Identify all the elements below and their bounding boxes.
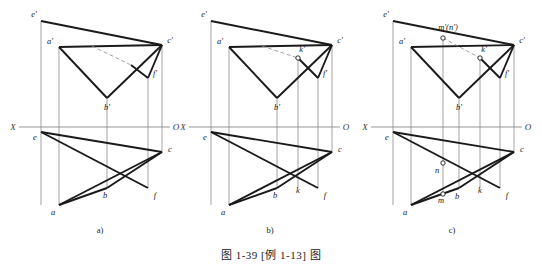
label-a: a (51, 207, 55, 217)
label-b: b (273, 190, 277, 200)
label-a-prime: a' (217, 36, 223, 46)
panel-a: e' a' c' f' b' e c b f a X O a) (9, 9, 180, 235)
figure-caption: 图 1-39 [例 1-13] 图 (0, 246, 542, 262)
panel-b-sublabel: b) (266, 225, 273, 235)
label-e-prime: e' (31, 9, 37, 19)
panel-c-edge-ep-fp-hidden (443, 38, 480, 58)
figure-root: e' a' c' f' b' e c b f a X O a) (0, 0, 542, 274)
label-m: m (438, 195, 444, 205)
label-k-prime: k' (299, 44, 305, 54)
panel-c-projection-lines (393, 21, 514, 205)
label-axis-x-b: X (179, 122, 186, 132)
label-axis-o-b: O (343, 122, 350, 132)
panel-a-frontal-triangle-abc (59, 45, 162, 98)
label-c-prime: c' (519, 35, 525, 45)
edge-a-c (229, 152, 332, 205)
edge-ep-cp (211, 21, 332, 45)
label-a: a (403, 207, 407, 217)
label-a-prime: a' (399, 36, 405, 46)
panel-b-projection-lines (211, 21, 332, 205)
edge-a-c (59, 152, 162, 205)
panel-c-sublabel: c) (449, 225, 456, 235)
label-e-prime: e' (383, 9, 389, 19)
label-b-prime: b' (104, 102, 110, 112)
panel-a-edge-ep-fp-hidden (92, 46, 131, 65)
edge-ap-bp (59, 47, 107, 98)
label-k-prime: k' (481, 44, 487, 54)
edge-a-b (229, 188, 277, 205)
label-axis-x-a: X (9, 122, 16, 132)
label-c-prime: c' (167, 35, 173, 45)
projection-drawing-svg: e' a' c' f' b' e c b f a X O a) (0, 0, 542, 274)
edge-a-b (411, 188, 459, 205)
edge-ep-cp (41, 21, 162, 45)
label-mn-prime: m'(n') (438, 22, 458, 32)
label-axis-o-c: O (525, 122, 532, 132)
edge-ap-bp (411, 47, 459, 98)
label-e-prime: e' (201, 9, 207, 19)
label-e: e (33, 132, 37, 142)
panel-c-frontal-triangle-abc (411, 45, 514, 98)
panel-a-projection-lines (41, 21, 162, 205)
panel-a-sublabel: a) (97, 225, 104, 235)
edge-ap-cp (229, 45, 332, 47)
label-c: c (520, 144, 524, 154)
point-marker-mn-prime (441, 36, 445, 40)
label-f-prime: f' (323, 68, 327, 78)
edge-a-c (411, 152, 514, 205)
point-marker-k-prime (478, 56, 482, 60)
label-k: k (296, 185, 300, 195)
panel-b-horizontal-triangle-abc (229, 152, 332, 205)
panel-b-frontal-triangle-abc (229, 45, 332, 98)
label-f: f (154, 190, 158, 200)
point-marker-k-prime (296, 56, 300, 60)
label-f: f (506, 190, 510, 200)
label-b: b (455, 191, 459, 201)
label-c: c (168, 144, 172, 154)
panel-b-edge-ep-fp-hidden (262, 46, 298, 58)
panel-c: e' m'(n') a' c' k' f' b' e c n m b k f a… (361, 9, 532, 235)
label-f-prime: f' (505, 68, 509, 78)
label-b-prime: b' (274, 102, 280, 112)
label-b: b (103, 190, 107, 200)
panel-b: e' a' c' k' f' b' e c b k f a X O b) (179, 9, 350, 235)
label-c-prime: c' (337, 35, 343, 45)
edge-a-b (59, 188, 107, 205)
panel-a-horizontal-triangle-abc (59, 152, 162, 205)
label-axis-o-a: O (173, 122, 180, 132)
label-a-prime: a' (47, 36, 53, 46)
panel-c-horizontal-triangle-abc (411, 152, 514, 205)
point-marker-n (441, 161, 445, 165)
label-n: n (435, 165, 439, 175)
label-f: f (324, 190, 328, 200)
label-e: e (203, 132, 207, 142)
label-k: k (478, 185, 482, 195)
label-c: c (338, 144, 342, 154)
label-axis-x-c: X (361, 122, 368, 132)
edge-ap-cp (59, 45, 162, 47)
label-e: e (385, 132, 389, 142)
edge-ap-cp (411, 45, 514, 47)
edge-ap-bp (229, 47, 277, 98)
label-f-prime: f' (153, 68, 157, 78)
label-a: a (221, 207, 225, 217)
label-b-prime: b' (456, 102, 462, 112)
